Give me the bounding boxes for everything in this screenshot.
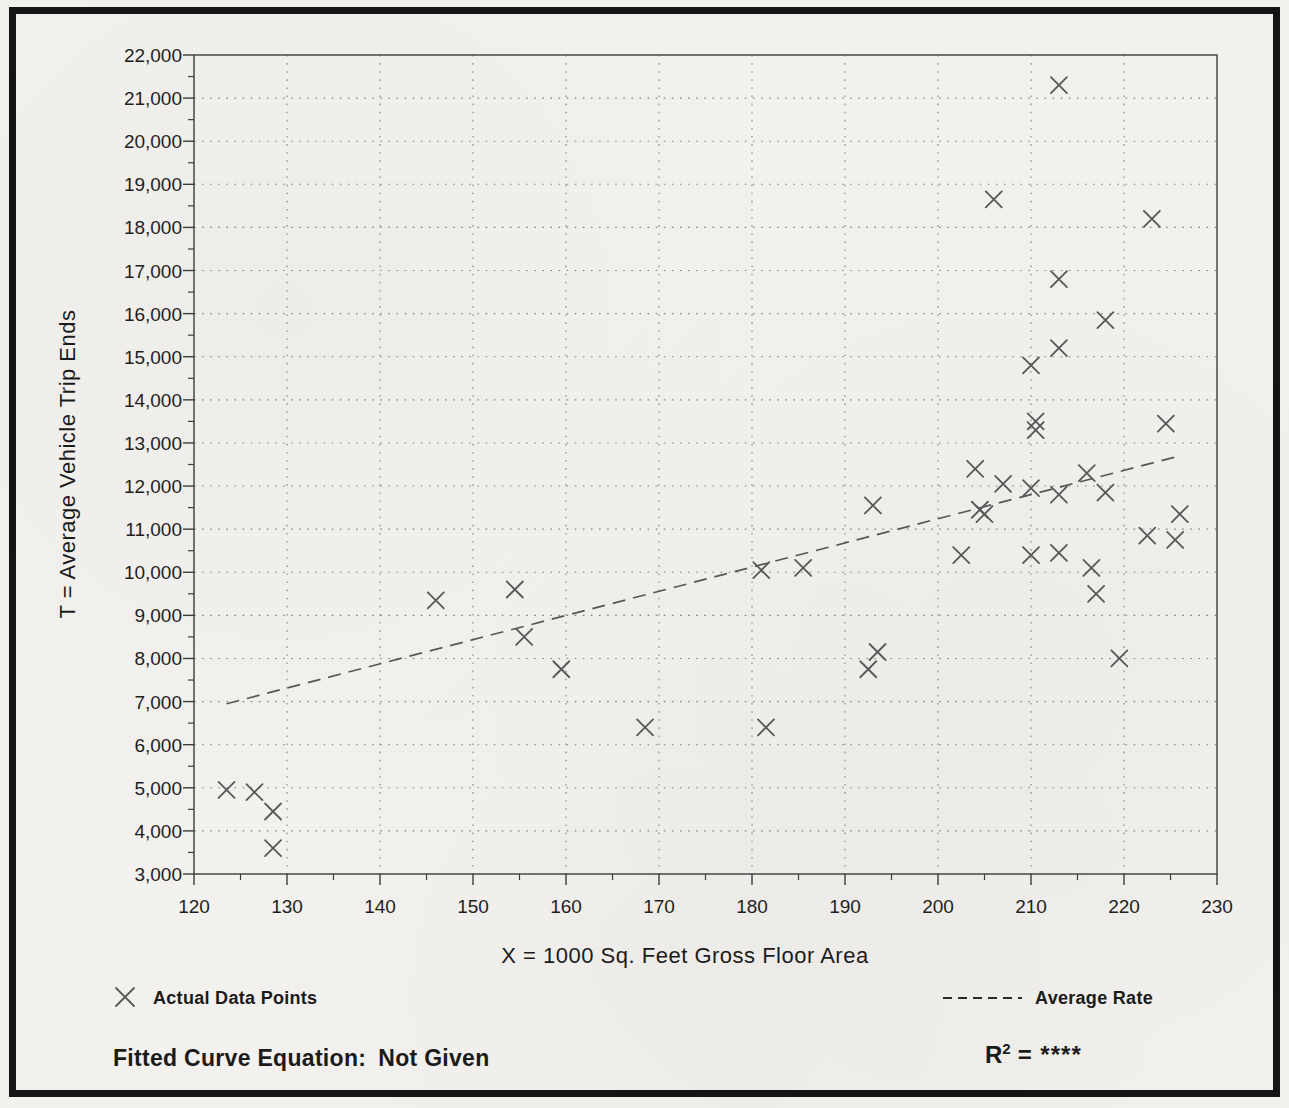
y-tick-label: 8,000 [134,648,182,669]
data-point-marker [1051,545,1067,561]
y-tick-label: 6,000 [134,735,182,756]
y-tick-label: 16,000 [124,304,182,325]
y-tick-label: 3,000 [134,864,182,885]
data-point-marker [246,784,262,800]
data-point-marker [265,840,281,856]
fitted-curve-equation-value: Not Given [378,1045,489,1071]
y-tick-label: 5,000 [134,778,182,799]
legend-average-rate-label: Average Rate [1035,988,1153,1009]
y-axis-title: T = Average Vehicle Trip Ends [55,309,81,618]
y-tick-label: 17,000 [124,261,182,282]
y-tick-label: 7,000 [134,692,182,713]
data-point-marker [1144,211,1160,227]
x-tick-label: 220 [1108,896,1140,917]
data-point-marker [1051,487,1067,503]
data-point-marker [1097,312,1113,328]
data-point-marker [1167,532,1183,548]
x-tick-label: 120 [178,896,210,917]
data-point-marker [507,582,523,598]
data-point-marker [865,497,881,513]
x-tick-label: 210 [1015,896,1047,917]
legend-x-marker [116,988,134,1006]
x-tick-label: 130 [271,896,303,917]
data-point-marker [977,506,993,522]
data-point-marker [553,661,569,677]
data-point-marker [1088,586,1104,602]
data-point-marker [967,461,983,477]
data-point-marker [995,476,1011,492]
data-point-marker [1158,416,1174,432]
y-tick-label: 13,000 [124,433,182,454]
data-point-marker [1051,271,1067,287]
x-tick-label: 190 [829,896,861,917]
x-tick-label: 150 [457,896,489,917]
data-point-marker [860,661,876,677]
r-squared-statistic: R2= **** [985,1041,1082,1069]
data-point-marker [516,629,532,645]
data-point-marker [870,644,886,660]
x-tick-label: 230 [1201,896,1233,917]
data-point-marker [758,719,774,735]
fitted-curve-equation: Fitted Curve Equation:Not Given [113,1045,490,1072]
r-squared-letter: R [985,1041,1002,1068]
x-tick-label: 200 [922,896,954,917]
x-tick-label: 170 [643,896,675,917]
x-tick-label: 180 [736,896,768,917]
data-point-marker [219,782,235,798]
y-tick-label: 9,000 [134,605,182,626]
scanned-chart-page: 1201301401501601701801902002102202303,00… [0,0,1289,1108]
y-tick-label: 21,000 [124,88,182,109]
data-point-marker [428,592,444,608]
y-tick-label: 19,000 [124,174,182,195]
data-point-marker [1139,528,1155,544]
plot-border [194,55,1217,874]
y-tick-label: 4,000 [134,821,182,842]
y-tick-label: 10,000 [124,562,182,583]
x-tick-label: 140 [364,896,396,917]
data-point-marker [265,803,281,819]
fitted-curve-equation-label: Fitted Curve Equation: [113,1045,366,1071]
legend-actual-data-points-label: Actual Data Points [153,988,317,1009]
data-point-marker [1051,340,1067,356]
data-point-marker [1079,465,1095,481]
y-tick-label: 20,000 [124,131,182,152]
y-tick-label: 14,000 [124,390,182,411]
data-point-marker [1051,77,1067,93]
y-tick-label: 18,000 [124,217,182,238]
data-point-marker [1172,506,1188,522]
x-tick-label: 160 [550,896,582,917]
data-point-marker [637,719,653,735]
y-tick-label: 11,000 [125,519,182,540]
data-point-marker [1083,560,1099,576]
x-axis-title: X = 1000 Sq. Feet Gross Floor Area [501,943,868,969]
r-squared-value: = **** [1018,1041,1082,1068]
data-point-marker [795,560,811,576]
y-tick-label: 12,000 [124,476,182,497]
chart-svg: 1201301401501601701801902002102202303,00… [0,0,1289,1108]
y-tick-label: 22,000 [124,45,182,66]
r-squared-exponent: 2 [1002,1040,1010,1057]
data-point-marker [986,191,1002,207]
data-point-marker [953,547,969,563]
data-point-marker [1028,413,1044,429]
data-point-marker [1111,650,1127,666]
data-point-marker [1097,485,1113,501]
y-tick-label: 15,000 [124,347,182,368]
data-point-marker [1028,422,1044,438]
